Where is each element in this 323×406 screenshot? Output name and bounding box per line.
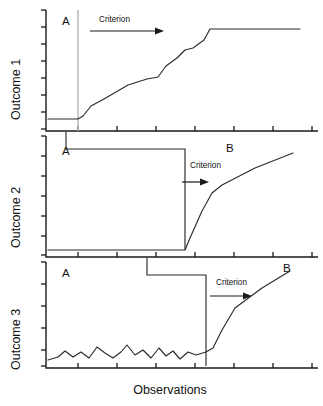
panel-1-criterion-label: Criterion bbox=[99, 15, 130, 24]
panel-3-criterion-arrow-icon bbox=[210, 293, 252, 300]
panel-2: Outcome 2 A B C bbox=[9, 132, 318, 257]
panel-2-phase-a-label: A bbox=[62, 145, 70, 157]
outcome-panels-figure: Outcome 1 bbox=[0, 0, 323, 406]
panel-3-phase-line bbox=[147, 258, 206, 366]
panel-3-data-line bbox=[48, 271, 290, 360]
panel-1-data-line bbox=[48, 29, 300, 119]
panel-2-phase-b-label: B bbox=[226, 142, 234, 154]
panel-3-axes bbox=[41, 262, 318, 368]
panel-3-y-axis-label: Outcome 3 bbox=[9, 309, 23, 370]
panel-2-data-line bbox=[48, 153, 293, 250]
x-axis-label: Observations bbox=[133, 383, 207, 397]
panel-1-phase-a-label: A bbox=[62, 15, 70, 27]
panel-2-axes bbox=[41, 136, 318, 257]
panel-1: Outcome 1 bbox=[9, 10, 318, 131]
figure-canvas: Outcome 1 bbox=[0, 0, 323, 406]
panel-1-axes bbox=[41, 10, 318, 131]
panel-2-criterion-label: Criterion bbox=[190, 161, 221, 170]
panel-1-y-axis-label: Outcome 1 bbox=[9, 59, 23, 120]
panel-2-phase-line bbox=[66, 132, 185, 250]
panel-3: Outcome 3 A B Criterion bbox=[9, 258, 318, 370]
panel-1-criterion-arrow-icon bbox=[90, 27, 164, 34]
panel-2-criterion-arrow-icon bbox=[182, 179, 209, 186]
panel-3-phase-a-label: A bbox=[62, 267, 70, 279]
panel-2-y-axis-label: Outcome 2 bbox=[9, 187, 23, 248]
panel-3-criterion-label: Criterion bbox=[216, 278, 247, 287]
